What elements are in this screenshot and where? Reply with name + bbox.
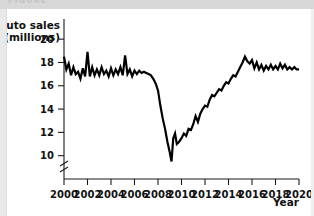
auto-sales-line-series [64,52,299,162]
line-chart: Auto sales (millions) Year 201816141210 … [7,9,311,216]
y-tick-label-12: 12 [40,127,54,138]
chart-container: Auto sales (millions) Year 201816141210 … [7,9,311,216]
x-axis-ticks [64,179,299,185]
y-tick-label-20: 20 [40,34,54,45]
page-right-gutter [311,9,314,216]
y-axis-title-line1: Auto sales [7,19,60,31]
y-tick-label-10: 10 [40,150,54,161]
figure-header-label: FIGURE [8,0,47,5]
y-axis-ticks [58,39,64,156]
x-axis-tick-labels: 2000200220042006200820102012201420162018… [50,189,311,200]
figure-header-band: FIGURE [0,0,314,9]
y-tick-label-18: 18 [40,57,54,68]
y-tick-label-16: 16 [40,80,54,91]
page-left-gutter [0,9,7,216]
y-axis-tick-labels: 201816141210 [40,34,54,162]
x-tick-label-2020: 2020 [285,189,311,200]
y-tick-label-14: 14 [40,104,54,115]
figure-root: FIGURE Auto sales (millions) Year 201816… [0,0,314,216]
